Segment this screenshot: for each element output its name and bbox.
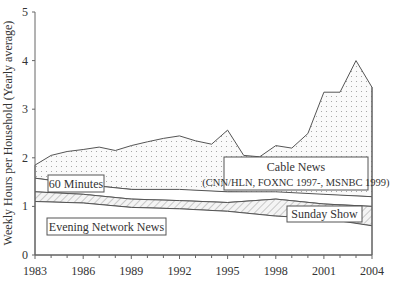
x-tick-labels: 1983 1986 1989 1992 1995 1998 2001 2004 bbox=[23, 264, 384, 278]
svg-text:2004: 2004 bbox=[360, 264, 384, 278]
svg-text:1995: 1995 bbox=[216, 264, 240, 278]
svg-text:Cable News: Cable News bbox=[267, 160, 326, 174]
label-cable-news: Cable News (CNN/HLN, FOXNC 1997-, MSNBC … bbox=[202, 157, 390, 190]
svg-text:(CNN/HLN, FOXNC 1997-, MSNBC 1: (CNN/HLN, FOXNC 1997-, MSNBC 1999) bbox=[202, 177, 390, 189]
svg-text:4: 4 bbox=[22, 54, 28, 68]
svg-text:2: 2 bbox=[22, 151, 28, 165]
chart: 0 1 2 3 4 5 1983 1986 1989 1992 1995 199… bbox=[0, 0, 409, 284]
label-evening-news: Evening Network News bbox=[47, 218, 166, 235]
svg-text:Sunday Show: Sunday Show bbox=[291, 207, 358, 221]
svg-text:1983: 1983 bbox=[23, 264, 47, 278]
y-tick-labels: 0 1 2 3 4 5 bbox=[22, 5, 28, 262]
y-axis-label: Weekly Hours per Household (Yearly avera… bbox=[1, 21, 15, 246]
x-ticks bbox=[35, 255, 372, 259]
label-sunday-show: Sunday Show bbox=[287, 206, 362, 222]
svg-text:1986: 1986 bbox=[71, 264, 95, 278]
svg-text:5: 5 bbox=[22, 5, 28, 19]
svg-text:0: 0 bbox=[22, 248, 28, 262]
svg-text:Evening Network News: Evening Network News bbox=[49, 220, 165, 234]
svg-text:1992: 1992 bbox=[168, 264, 192, 278]
svg-text:1998: 1998 bbox=[264, 264, 288, 278]
svg-text:1989: 1989 bbox=[119, 264, 143, 278]
svg-text:1: 1 bbox=[22, 199, 28, 213]
svg-text:3: 3 bbox=[22, 102, 28, 116]
svg-text:60 Minutes: 60 Minutes bbox=[49, 177, 104, 191]
svg-text:2001: 2001 bbox=[312, 264, 336, 278]
label-60-minutes: 60 Minutes bbox=[48, 175, 104, 192]
